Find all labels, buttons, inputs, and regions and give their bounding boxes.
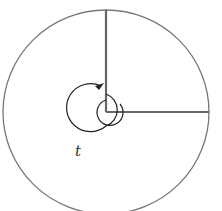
angle-diagram: t: [0, 0, 222, 211]
spiral-arrow: [67, 84, 123, 132]
angle-label-t: t: [75, 142, 82, 160]
